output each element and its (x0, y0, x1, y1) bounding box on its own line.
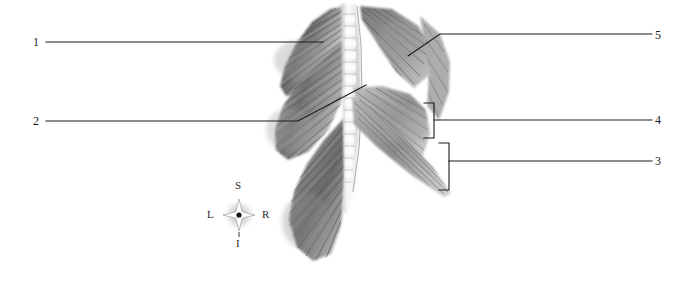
label-3[interactable]: 3 (655, 155, 661, 167)
compass-label-superior: S (235, 180, 241, 191)
compass-label-right: R (262, 209, 269, 220)
compass-label-left: L (207, 209, 214, 220)
anatomical-orientation-rosette: S I L R (199, 180, 279, 250)
anatomy-figure: 1 2 5 4 3 S I L R (0, 0, 696, 285)
label-4[interactable]: 4 (655, 114, 661, 126)
label-5[interactable]: 5 (655, 29, 661, 41)
compass-label-inferior: I (236, 238, 240, 249)
back-muscles-illustration (0, 0, 696, 285)
label-2[interactable]: 2 (33, 115, 39, 127)
label-1[interactable]: 1 (33, 36, 39, 48)
